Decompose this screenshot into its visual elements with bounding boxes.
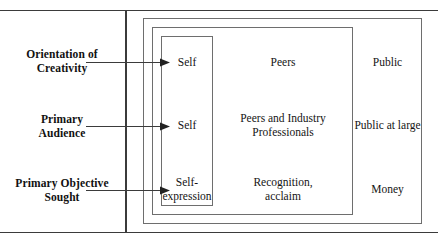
diagram-canvas: Orientation of Creativity Primary Audien… [0, 0, 438, 243]
row-label-line-1: Primary [0, 113, 124, 127]
cell-middle-orientation: Peers [214, 56, 352, 70]
frame-bottom-rule [0, 232, 438, 233]
row-label-line-1: Orientation of [0, 48, 124, 62]
cell-text-line-1: Self- [161, 176, 213, 190]
row-label-line-1: Primary Objective [0, 177, 124, 191]
cell-inner-objective: Self- expression [161, 176, 213, 203]
cell-outer-audience: Public at large [354, 119, 421, 133]
row-label-primary-objective-sought: Primary Objective Sought [0, 177, 124, 204]
cell-text-line-2: Professionals [214, 126, 352, 140]
row-label-line-2: Creativity [0, 62, 124, 76]
cell-inner-orientation: Self [161, 56, 213, 70]
cell-middle-objective: Recognition, acclaim [214, 176, 352, 203]
frame-top-rule [0, 10, 438, 11]
cell-inner-audience: Self [161, 119, 213, 133]
cell-text-line-1: Recognition, [214, 176, 352, 190]
row-label-line-2: Audience [0, 127, 124, 141]
cell-outer-orientation: Public [354, 56, 421, 70]
label-column-divider [125, 10, 127, 233]
cell-middle-audience: Peers and Industry Professionals [214, 112, 352, 139]
cell-outer-objective: Money [354, 183, 421, 197]
cell-text-line-2: acclaim [214, 190, 352, 204]
cell-text-line-1: Peers and Industry [214, 112, 352, 126]
cell-text-line-2: expression [161, 190, 213, 204]
row-label-line-2: Sought [0, 191, 124, 205]
row-label-primary-audience: Primary Audience [0, 113, 124, 140]
row-label-orientation-of-creativity: Orientation of Creativity [0, 48, 124, 75]
